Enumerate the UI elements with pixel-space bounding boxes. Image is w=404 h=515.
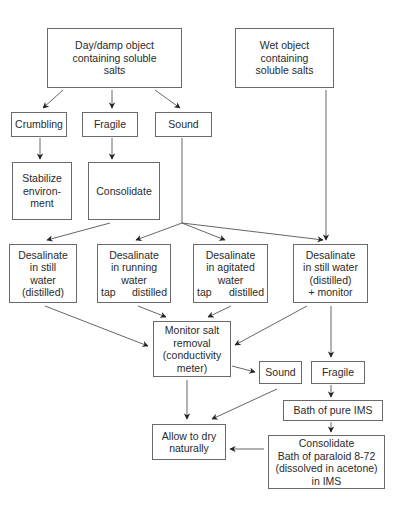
node-text: meter) bbox=[177, 362, 207, 375]
node-text: Consolidate bbox=[299, 437, 354, 450]
water-type-options: tap distilled bbox=[100, 286, 168, 299]
node-text: Desalinate bbox=[18, 249, 68, 262]
node-text: ment bbox=[30, 197, 53, 210]
node-text: containing soluble bbox=[72, 52, 156, 65]
node-wet-object: Wet object containing soluble salts bbox=[235, 28, 334, 88]
node-text: Wet object bbox=[260, 39, 309, 52]
arrow-dry-to-crumbling bbox=[43, 90, 63, 108]
node-text: in agitated bbox=[206, 261, 254, 274]
node-text: Bath of paraloid 8-72 bbox=[278, 450, 375, 463]
arrow-dry-to-sound bbox=[155, 90, 180, 108]
option-tap: tap bbox=[101, 286, 116, 299]
node-text: Day/damp object bbox=[75, 39, 154, 52]
node-text: in IMS bbox=[312, 475, 342, 488]
node-text: Desalinate bbox=[109, 249, 159, 262]
node-text: containing bbox=[261, 52, 309, 65]
node-text: (distilled) bbox=[22, 286, 64, 299]
node-text: naturally bbox=[169, 442, 209, 455]
node-dry-damp-object: Day/damp object containing soluble salts bbox=[47, 28, 182, 88]
node-text: removal bbox=[173, 337, 210, 350]
node-text: Fragile bbox=[322, 366, 354, 379]
arrow-still-to-monitor bbox=[45, 306, 148, 346]
node-text: Desalinate bbox=[306, 249, 356, 262]
node-desalinate-agitated: Desalinate in agitated water tap distill… bbox=[193, 244, 268, 303]
arrow-sound-to-agitated bbox=[182, 223, 225, 240]
node-desalinate-still-monitor: Desalinate in still water (distilled) + … bbox=[293, 244, 368, 303]
node-text: water bbox=[121, 274, 147, 287]
node-desalinate-still: Desalinate in still water (distilled) bbox=[9, 244, 77, 303]
node-text: (dissolved in acetone) bbox=[275, 462, 377, 475]
arrow-consolidate-to-desalinate-still bbox=[47, 223, 110, 240]
node-sound-top: Sound bbox=[155, 112, 212, 137]
node-text: Sound bbox=[168, 118, 198, 131]
node-desalinate-running: Desalinate in running water tap distille… bbox=[97, 244, 171, 303]
node-text: water bbox=[218, 274, 244, 287]
option-distilled: distilled bbox=[229, 286, 264, 299]
node-consolidate-bottom: Consolidate Bath of paraloid 8-72 (disso… bbox=[268, 435, 385, 489]
node-text: Desalinate bbox=[206, 249, 256, 262]
node-text: Monitor salt bbox=[165, 324, 219, 337]
node-text: Consolidate bbox=[96, 185, 151, 198]
node-fragile-top: Fragile bbox=[82, 112, 138, 137]
option-distilled: distilled bbox=[132, 286, 167, 299]
arrow-monitor-to-sound bbox=[232, 366, 255, 372]
node-text: salts bbox=[104, 64, 126, 77]
arrow-sound-to-running bbox=[136, 223, 182, 240]
node-text: in running bbox=[111, 261, 157, 274]
node-text: in still water bbox=[303, 261, 358, 274]
node-text: (distilled) bbox=[309, 274, 351, 287]
water-type-options: tap distilled bbox=[196, 286, 265, 299]
node-text: environ- bbox=[23, 185, 61, 198]
node-monitor-salt-removal: Monitor salt removal (conductivity meter… bbox=[153, 321, 231, 377]
node-text: Crumbling bbox=[15, 118, 63, 131]
node-fragile-bottom: Fragile bbox=[311, 361, 365, 384]
node-text: Bath of pure IMS bbox=[294, 404, 373, 417]
node-text: soluble salts bbox=[256, 64, 314, 77]
node-text: Fragile bbox=[94, 118, 126, 131]
arrow-agitated-to-monitor bbox=[208, 306, 231, 317]
arrow-running-to-monitor bbox=[138, 306, 166, 317]
node-text: water bbox=[30, 274, 56, 287]
node-sound-bottom: Sound bbox=[259, 361, 302, 384]
node-text: Stabilize bbox=[22, 172, 62, 185]
option-tap: tap bbox=[197, 286, 212, 299]
node-text: in still bbox=[30, 261, 56, 274]
node-bath-pure-ims: Bath of pure IMS bbox=[283, 400, 383, 421]
node-crumbling: Crumbling bbox=[11, 112, 67, 137]
node-text: (conductivity bbox=[163, 349, 221, 362]
node-stabilize: Stabilize environ- ment bbox=[12, 162, 72, 220]
node-text: Allow to dry bbox=[162, 430, 216, 443]
node-text: Sound bbox=[265, 366, 295, 379]
arrow-sound-to-still-monitor bbox=[182, 223, 323, 240]
node-text: + monitor bbox=[308, 286, 352, 299]
node-consolidate-top: Consolidate bbox=[88, 162, 160, 220]
node-allow-to-dry: Allow to dry naturally bbox=[152, 424, 226, 460]
arrow-sound-to-allow-dry bbox=[212, 389, 277, 419]
arrow-still-monitor-to-monitor bbox=[235, 306, 307, 345]
